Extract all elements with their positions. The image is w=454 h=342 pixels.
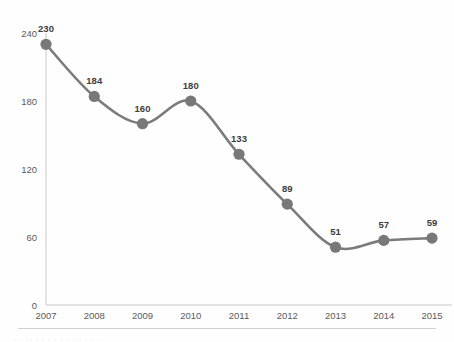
- data-point-marker[interactable]: [330, 242, 341, 253]
- x-tick-label: 2012: [277, 310, 298, 321]
- data-point-label: 133: [231, 133, 247, 144]
- chart-axes: [46, 33, 452, 305]
- data-point-label: 180: [183, 80, 199, 91]
- data-point-marker[interactable]: [40, 39, 51, 50]
- x-tick-label: 2013: [325, 310, 346, 321]
- data-point-label: 51: [330, 226, 341, 237]
- data-point-label: 57: [378, 219, 389, 230]
- data-point-marker[interactable]: [426, 233, 437, 244]
- data-point-label: 230: [38, 23, 54, 34]
- data-point-label: 89: [282, 183, 293, 194]
- y-tick-label: 120: [21, 164, 37, 175]
- series-data-labels: 23018416018013389515759: [38, 23, 437, 237]
- y-axis-tick-labels: 060120180240: [21, 28, 37, 311]
- data-point-marker[interactable]: [233, 149, 244, 160]
- x-tick-label: 2008: [84, 310, 105, 321]
- x-tick-label: 2010: [180, 310, 201, 321]
- x-tick-label: 2011: [229, 310, 249, 321]
- chart-canvas: 060120180240 200720082009201020112012201…: [0, 0, 454, 342]
- data-point-marker[interactable]: [185, 95, 196, 106]
- data-point-marker[interactable]: [137, 118, 148, 129]
- x-tick-label: 2014: [373, 310, 394, 321]
- series-line-path: [46, 44, 432, 249]
- footer-divider: [18, 328, 436, 329]
- y-tick-label: 240: [21, 28, 37, 39]
- data-point-marker[interactable]: [282, 199, 293, 210]
- y-tick-label: 0: [32, 300, 37, 311]
- data-point-label: 160: [135, 103, 151, 114]
- x-tick-label: 2009: [132, 310, 153, 321]
- y-tick-label: 180: [21, 96, 37, 107]
- x-tick-label: 2015: [421, 310, 442, 321]
- line-chart: 060120180240 200720082009201020112012201…: [0, 0, 454, 342]
- data-point-marker[interactable]: [89, 91, 100, 102]
- footer-clipped-text: · · ·· · · · · · · ··· · · ·: [14, 334, 444, 342]
- y-tick-label: 60: [26, 232, 37, 243]
- x-axis-tick-labels: 200720082009201020112012201320142015: [35, 310, 442, 321]
- x-tick-label: 2007: [35, 310, 56, 321]
- series-line: [46, 44, 432, 249]
- data-point-label: 184: [86, 75, 103, 86]
- data-point-label: 59: [427, 217, 438, 228]
- data-point-marker[interactable]: [378, 235, 389, 246]
